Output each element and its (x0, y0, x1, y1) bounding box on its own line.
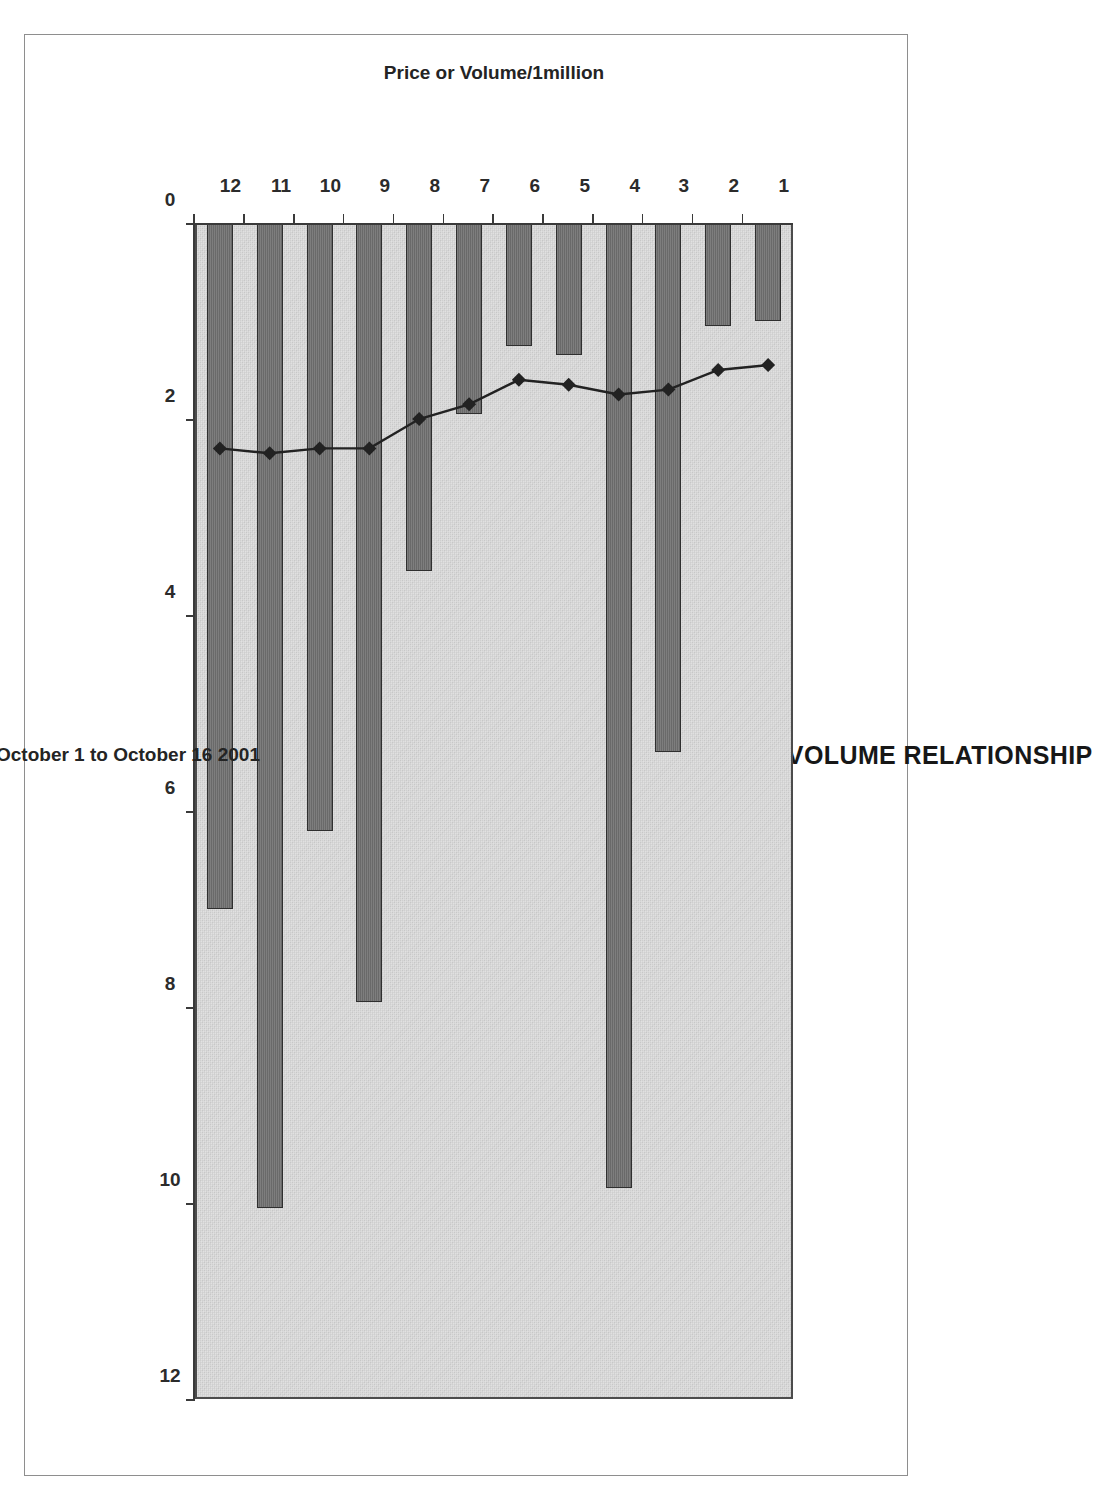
category-tick-7 (443, 214, 445, 223)
price-marker-10 (313, 441, 327, 455)
category-tick-1 (742, 214, 744, 223)
category-axis-line (193, 223, 793, 225)
category-label-3: 3 (647, 175, 689, 197)
category-tick-6 (493, 214, 495, 223)
category-label-5: 5 (548, 175, 590, 197)
value-tick-8 (186, 1007, 195, 1009)
price-marker-3 (661, 383, 675, 397)
value-tick-label-6: 6 (147, 777, 193, 799)
value-tick-label-4: 4 (147, 581, 193, 603)
value-tick-0 (186, 223, 195, 225)
value-tick-4 (186, 615, 195, 617)
category-label-4: 4 (598, 175, 640, 197)
price-marker-1 (761, 358, 775, 372)
price-marker-6 (512, 373, 526, 387)
price-marker-7 (462, 397, 476, 411)
category-label-11: 11 (249, 175, 291, 197)
price-marker-9 (362, 441, 376, 455)
price-marker-8 (412, 412, 426, 426)
category-label-8: 8 (398, 175, 440, 197)
category-axis-title: Price or Volume/1million (384, 62, 604, 84)
category-label-12: 12 (199, 175, 241, 197)
value-tick-label-0: 0 (147, 189, 193, 211)
value-tick-12 (186, 1399, 195, 1401)
category-label-2: 2 (697, 175, 739, 197)
price-marker-2 (711, 363, 725, 377)
category-label-7: 7 (448, 175, 490, 197)
value-tick-2 (186, 419, 195, 421)
category-label-10: 10 (299, 175, 341, 197)
page-border: CORV PRICE VOLUME RELATIONSHIP 024681012… (24, 34, 908, 1476)
price-marker-5 (562, 378, 576, 392)
category-label-6: 6 (498, 175, 540, 197)
rotated-chart-stage: CORV PRICE VOLUME RELATIONSHIP 024681012… (51, 55, 881, 1455)
value-tick-label-12: 12 (147, 1365, 193, 1387)
price-marker-12 (213, 441, 227, 455)
price-marker-11 (263, 446, 277, 460)
value-tick-6 (186, 811, 195, 813)
category-tick-9 (343, 214, 345, 223)
category-tick-3 (642, 214, 644, 223)
price-marker-4 (612, 388, 626, 402)
price-line (220, 365, 768, 453)
category-tick-11 (243, 214, 245, 223)
category-tick-4 (592, 214, 594, 223)
value-tick-label-10: 10 (147, 1169, 193, 1191)
category-label-9: 9 (348, 175, 390, 197)
category-label-1: 1 (747, 175, 789, 197)
category-tick-12 (194, 214, 196, 223)
value-tick-label-2: 2 (147, 385, 193, 407)
value-tick-10 (186, 1203, 195, 1205)
chart-canvas: CORV PRICE VOLUME RELATIONSHIP 024681012… (51, 55, 881, 1455)
value-axis-title: October 1 to October 16 2001 (0, 744, 828, 766)
category-tick-5 (542, 214, 544, 223)
category-tick-10 (293, 214, 295, 223)
category-tick-2 (692, 214, 694, 223)
value-tick-label-8: 8 (147, 973, 193, 995)
category-tick-8 (393, 214, 395, 223)
